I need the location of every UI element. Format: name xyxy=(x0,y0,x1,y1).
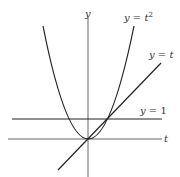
y-axis-label: y xyxy=(84,8,91,19)
t-axis-label: t xyxy=(164,133,169,144)
graph: t y y = 1 y = t y = t2 xyxy=(0,0,180,177)
line-y-equals-t xyxy=(58,63,161,170)
label-y-equals-t: y = t xyxy=(148,49,174,60)
curve-y-equals-t-squared xyxy=(43,26,134,139)
label-y-equals-1: y = 1 xyxy=(139,105,167,116)
label-y-equals-t-squared: y = t2 xyxy=(123,11,153,23)
